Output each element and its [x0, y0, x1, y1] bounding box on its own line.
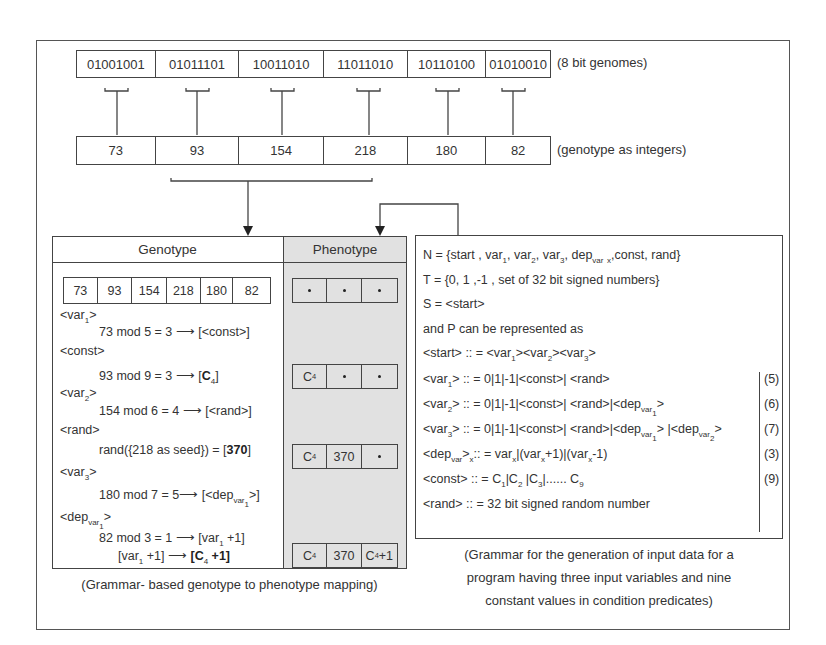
production-rand: <rand> :: = 32 bit signed random number — [423, 497, 650, 511]
right-caption: (Grammar for the generation of input dat… — [415, 543, 783, 612]
step-var1-label: <var1> — [60, 308, 96, 325]
genotype-value-cell: 73 — [64, 278, 98, 303]
binary-cell: 01011101 — [156, 51, 240, 77]
phenotype-header: Phenotype — [283, 242, 407, 257]
binary-cell: 11011010 — [324, 51, 408, 77]
step-const-label: <const> — [60, 344, 104, 358]
count-bracket-line — [759, 372, 760, 532]
phenotype-cell — [293, 279, 327, 302]
empty-slot-icon — [378, 375, 381, 378]
production-var3: <var3> :: = 0|1|-1|<const>| <rand>|<depv… — [423, 422, 722, 443]
step-dep-label: <depvar1> — [60, 510, 111, 531]
phenotype-cell — [327, 279, 361, 302]
phenotype-cell — [327, 365, 361, 388]
arrow-icon: ⟶ — [176, 369, 195, 383]
phenotype-state-4: C4 370 C4+1 — [292, 543, 398, 568]
phenotype-cell: C4 — [293, 544, 327, 567]
integer-cell: 73 — [77, 137, 156, 164]
arrow-icon: ⟶ — [183, 404, 202, 418]
binary-cell: 01001001 — [77, 51, 156, 77]
arrow-icon: ⟶ — [176, 531, 195, 545]
integer-cell: 93 — [156, 137, 240, 164]
phenotype-cell: 370 — [327, 544, 361, 567]
binary-cell: 10110100 — [408, 51, 487, 77]
genotype-value-cell: 180 — [201, 278, 234, 303]
step-var1-rule: 73 mod 5 = 3 ⟶ [<const>] — [99, 324, 250, 339]
count-dep: (3) — [764, 447, 779, 461]
genotype-value-cell: 93 — [98, 278, 133, 303]
binary-genome-row: 01001001 01011101 10011010 11011010 1011… — [76, 50, 551, 78]
phenotype-state-1 — [292, 278, 398, 303]
grammar-S: S = <start> — [423, 297, 485, 311]
phenotype-cell — [362, 279, 397, 302]
phenotype-cell: C4 — [293, 365, 327, 388]
binary-cell: 01010010 — [486, 51, 550, 77]
production-var1: <var1> :: = 0|1|-1|<const>| <rand> — [423, 372, 610, 389]
step-const-rule: 93 mod 9 = 3 ⟶ [C4] — [99, 368, 219, 386]
left-caption: (Grammar- based genotype to phenotype ma… — [52, 573, 407, 596]
step-final-rule: [var1 +1] ⟶ [C4 +1] — [118, 548, 230, 566]
phenotype-cell — [362, 365, 397, 388]
phenotype-state-3: C4 370 — [292, 444, 398, 469]
grammar-P-intro: and P can be represented as — [423, 322, 583, 336]
right-caption-line: constant values in condition predicates) — [415, 589, 783, 612]
count-const: (9) — [764, 472, 779, 486]
arrow-icon: ⟶ — [168, 549, 187, 563]
arrow-icon: ⟶ — [176, 325, 195, 339]
integer-cell: 180 — [408, 137, 487, 164]
empty-slot-icon — [378, 455, 381, 458]
production-start: <start> :: = <var1><var2><var3> — [423, 346, 596, 363]
integer-cell: 218 — [324, 137, 408, 164]
grammar-N: N = {start , var1, var2, var3, depvar x,… — [423, 248, 680, 265]
empty-slot-icon — [308, 289, 311, 292]
step-dep-rule: 82 mod 3 = 1 ⟶ [var1 +1] — [99, 530, 245, 548]
count-var2: (6) — [764, 397, 779, 411]
genotype-values-table: 73 93 154 218 180 82 — [63, 277, 271, 304]
step-var3-rule: 180 mod 7 = 5⟶ [<depvar1>] — [99, 487, 260, 509]
step-var2-label: <var2> — [60, 386, 96, 403]
step-rand-label: <rand> — [60, 423, 100, 437]
grammar-T: T = {0, 1 ,-1 , set of 32 bit signed num… — [423, 273, 659, 287]
step-var3-label: <var3> — [60, 465, 96, 482]
count-var3: (7) — [764, 422, 779, 436]
empty-slot-icon — [343, 375, 346, 378]
count-var1: (5) — [764, 372, 779, 386]
phenotype-state-2: C4 — [292, 364, 398, 389]
empty-slot-icon — [343, 289, 346, 292]
binary-cell: 10011010 — [239, 51, 324, 77]
arrow-icon: ⟶ — [179, 488, 198, 502]
production-dep: <depvar>x:: = varx|(varx+1)|(varx-1) — [423, 447, 607, 464]
production-const: <const> :: = C1|C2 |C3|...... C9 — [423, 472, 584, 489]
production-var2: <var2> :: = 0|1|-1|<const>| <rand>|<depv… — [423, 397, 664, 418]
genotype-value-cell: 82 — [233, 278, 270, 303]
right-caption-line: program having three input variables and… — [415, 566, 783, 589]
phenotype-cell: C4 — [293, 445, 327, 468]
phenotype-cell: C4+1 — [362, 544, 397, 567]
empty-slot-icon — [378, 289, 381, 292]
integers-label: (genotype as integers) — [557, 142, 686, 157]
binary-label: (8 bit genomes) — [557, 55, 647, 70]
genotype-header: Genotype — [52, 242, 283, 257]
step-var2-rule: 154 mod 6 = 4 ⟶ [<rand>] — [99, 403, 252, 418]
header-divider — [52, 262, 407, 263]
integer-cell: 154 — [239, 137, 324, 164]
right-caption-line: (Grammar for the generation of input dat… — [415, 543, 783, 566]
phenotype-cell: 370 — [327, 445, 361, 468]
genotype-value-cell: 218 — [167, 278, 201, 303]
integer-cell: 82 — [486, 137, 550, 164]
phenotype-cell — [362, 445, 397, 468]
step-rand-rule: rand({218 as seed}) = [370] — [99, 443, 251, 457]
integer-genome-row: 73 93 154 218 180 82 — [76, 136, 551, 165]
genotype-value-cell: 154 — [132, 278, 167, 303]
